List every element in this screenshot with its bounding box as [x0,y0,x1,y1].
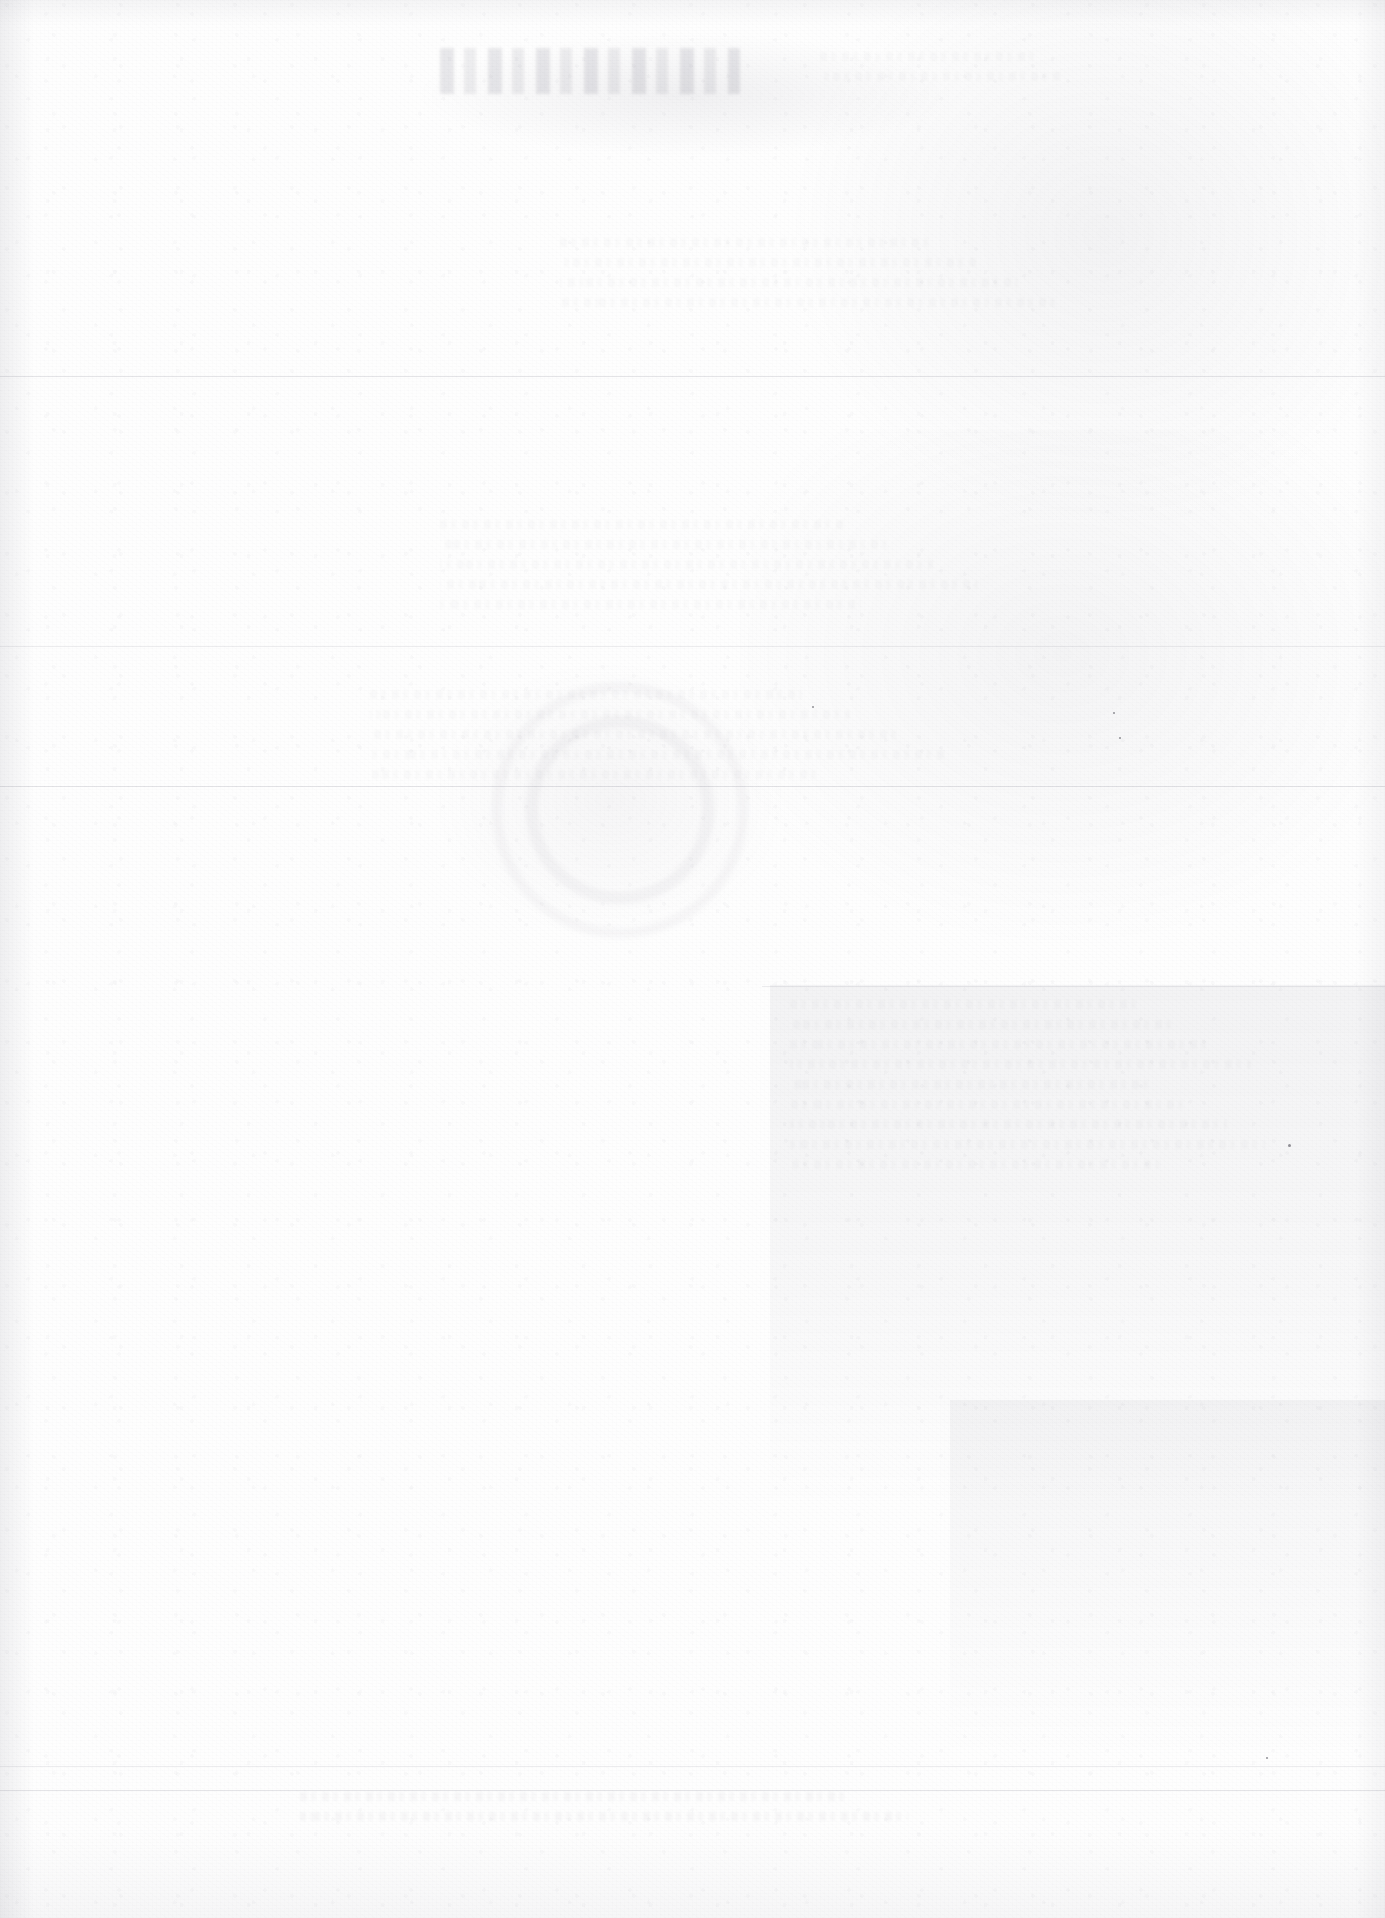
scanned-page: No legible characters survive on this sc… [0,0,1385,1918]
paper-surface [0,0,1385,1918]
